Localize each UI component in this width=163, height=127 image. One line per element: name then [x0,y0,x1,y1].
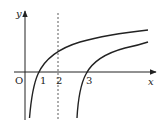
x-axis-label: x [148,76,154,87]
tick-label-2: 2 [56,75,62,86]
y-axis-label: y [15,8,22,19]
left-log-curve [30,30,149,118]
origin-label: O [15,75,23,86]
function-graph: y x O 1 2 3 [0,0,163,127]
tick-label-3: 3 [86,75,92,86]
tick-label-1: 1 [40,75,46,86]
